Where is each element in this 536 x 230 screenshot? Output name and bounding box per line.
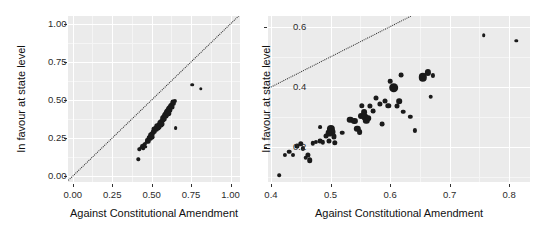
data-point xyxy=(199,87,202,90)
gridline-major-vertical xyxy=(450,16,451,182)
y-tick-label: 0.75 xyxy=(48,57,62,67)
data-point xyxy=(318,125,322,129)
data-point xyxy=(424,69,430,75)
y-tick-label: 1.00 xyxy=(48,19,62,29)
data-point xyxy=(307,157,313,163)
figure-scatter-pair: 0.000.250.500.751.000.000.250.500.751.00… xyxy=(0,0,536,230)
data-point xyxy=(291,153,295,157)
gridline-major-vertical xyxy=(390,16,391,182)
gridline-major-horizontal xyxy=(268,27,530,28)
data-point xyxy=(398,73,403,78)
x-axis-title-left: Against Constitutional Amendment xyxy=(70,208,238,219)
x-tick-label: 0.00 xyxy=(63,190,82,200)
x-tick-mark xyxy=(450,184,451,187)
gridline-minor-horizontal xyxy=(68,157,240,158)
y-tick-label: 0.25 xyxy=(48,133,62,143)
x-tick-label: 0.7 xyxy=(443,190,456,200)
x-tick-mark xyxy=(112,184,113,187)
plot-area-left xyxy=(68,16,240,182)
data-point xyxy=(482,33,486,37)
data-point xyxy=(137,158,140,161)
y-tick-label: 0.50 xyxy=(48,95,62,105)
x-tick-label: 1.00 xyxy=(221,190,240,200)
panel-left: 0.000.250.500.751.000.000.250.500.751.00… xyxy=(0,0,268,230)
gridline-minor-vertical xyxy=(420,16,421,182)
data-point xyxy=(396,99,402,105)
data-point xyxy=(174,126,178,130)
data-point xyxy=(359,103,364,108)
data-point xyxy=(428,94,433,99)
data-point xyxy=(365,116,371,122)
plot-area-right xyxy=(268,16,530,182)
data-point xyxy=(331,134,336,139)
gridline-minor-horizontal xyxy=(268,177,530,178)
x-tick-label: 0.50 xyxy=(142,190,161,200)
x-tick-mark xyxy=(152,184,153,187)
x-tick-mark xyxy=(231,184,232,187)
y-tick-label: 0.6 xyxy=(293,22,306,32)
x-tick-label: 0.4 xyxy=(264,190,277,200)
gridline-minor-horizontal xyxy=(268,57,530,58)
gridline-minor-horizontal xyxy=(268,117,530,118)
data-point xyxy=(278,173,282,177)
y-tick-label: 0.2 xyxy=(293,143,306,153)
data-point xyxy=(394,104,399,109)
gridline-minor-vertical xyxy=(301,16,302,182)
gridline-major-horizontal xyxy=(68,24,240,25)
data-point xyxy=(401,109,406,114)
gridline-minor-horizontal xyxy=(68,43,240,44)
x-tick-mark xyxy=(509,184,510,187)
gridline-minor-horizontal xyxy=(68,81,240,82)
gridline-major-vertical xyxy=(331,16,332,182)
x-tick-label: 0.6 xyxy=(383,190,396,200)
x-tick-mark xyxy=(73,184,74,187)
data-point xyxy=(357,129,363,135)
data-point xyxy=(408,114,412,118)
gridline-major-horizontal xyxy=(268,87,530,88)
data-point xyxy=(340,131,345,136)
data-point xyxy=(173,99,177,103)
y-tick-label: 0.00 xyxy=(48,171,62,181)
data-point xyxy=(332,140,337,145)
y-tick-mark xyxy=(264,27,267,28)
x-tick-label: 0.5 xyxy=(324,190,337,200)
data-point xyxy=(371,109,376,114)
data-point xyxy=(191,83,195,87)
gridline-major-vertical xyxy=(509,16,510,182)
x-tick-mark xyxy=(271,184,272,187)
x-tick-mark xyxy=(331,184,332,187)
x-tick-mark xyxy=(191,184,192,187)
panel-right: 0.40.50.60.70.80.20.40.6 Against Constit… xyxy=(268,0,536,230)
data-point xyxy=(431,73,435,77)
x-tick-label: 0.8 xyxy=(503,190,516,200)
data-point xyxy=(351,118,357,124)
gridline-major-horizontal xyxy=(68,100,240,101)
x-tick-label: 0.25 xyxy=(103,190,122,200)
data-point xyxy=(377,101,382,106)
data-point xyxy=(326,138,331,143)
x-axis-title-right: Against Constitutional Amendment xyxy=(315,208,483,219)
gridline-minor-horizontal xyxy=(68,119,240,120)
data-point xyxy=(144,145,148,149)
y-tick-label: 0.4 xyxy=(293,82,306,92)
y-axis-title-left: In favour at state level xyxy=(16,45,27,153)
gridline-major-horizontal xyxy=(68,176,240,177)
data-point xyxy=(413,128,417,132)
gridline-minor-vertical xyxy=(479,16,480,182)
x-tick-label: 0.75 xyxy=(182,190,201,200)
data-point xyxy=(380,122,385,127)
y-axis-title-right: In favour at state level xyxy=(261,45,272,153)
gridline-major-horizontal xyxy=(268,147,530,148)
data-point xyxy=(283,152,287,156)
data-point xyxy=(515,39,518,42)
data-point xyxy=(321,140,325,144)
gridline-major-horizontal xyxy=(68,62,240,63)
x-tick-mark xyxy=(390,184,391,187)
data-point xyxy=(373,96,378,101)
data-point xyxy=(389,83,399,93)
